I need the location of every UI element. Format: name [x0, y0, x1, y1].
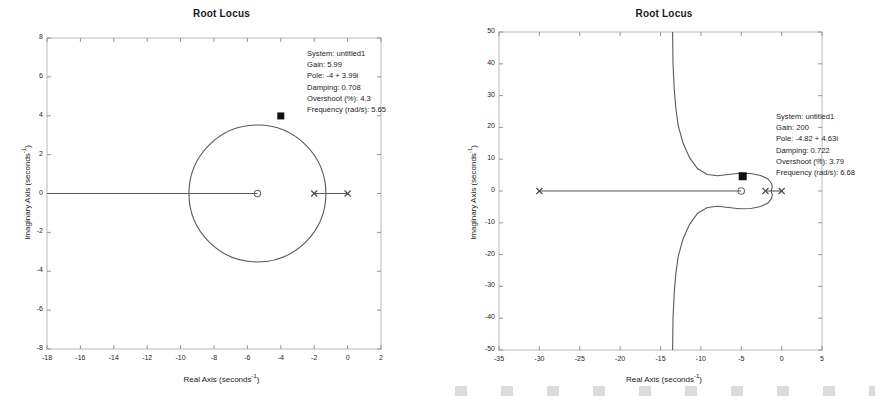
datatip-overshoot-left: Overshoot (%): 4.3	[307, 93, 386, 104]
x-tick-label: -8	[199, 354, 229, 361]
x-tick-label: -12	[132, 354, 162, 361]
y-tick-label: -10	[471, 218, 495, 225]
x-tick-label: -15	[646, 355, 676, 362]
datatip-system-right: System: untitled1	[776, 111, 855, 122]
root-locus-figure-right: Root Locus System: untitled1 Gain: 200 P…	[443, 0, 885, 406]
y-tick-label: -30	[471, 281, 495, 288]
y-tick-label: 6	[19, 72, 43, 79]
x-tick-label: -2	[299, 354, 329, 361]
x-axis-label-right: Real Axis (seconds-1)	[443, 375, 885, 384]
x-tick-label: -16	[65, 354, 95, 361]
datatip-overshoot-right: Overshoot (%): 3.79	[776, 156, 855, 167]
y-tick-label: 4	[19, 111, 43, 118]
x-tick-label: -10	[166, 354, 196, 361]
selected-pole-marker-right[interactable]	[739, 172, 747, 180]
x-tick-label: 0	[333, 354, 363, 361]
datatip-left[interactable]: System: untitled1 Gain: 5.99 Pole: -4 + …	[307, 48, 386, 115]
y-tick-label: -20	[471, 250, 495, 257]
root-locus-figure-pair: Root Locus System: untitled1 Gain: 5	[0, 0, 885, 406]
datatip-gain-left: Gain: 5.99	[307, 59, 386, 70]
y-tick-label: 40	[471, 59, 495, 66]
y-tick-label: 2	[19, 150, 43, 157]
datatip-pole-left: Pole: -4 + 3.99i	[307, 70, 386, 81]
y-tick-label: 20	[471, 122, 495, 129]
x-tick-label: -4	[266, 354, 296, 361]
y-tick-label: 0	[471, 186, 495, 193]
y-tick-label: -50	[471, 345, 495, 352]
y-tick-label: 50	[471, 27, 495, 34]
x-tick-label: -10	[686, 355, 716, 362]
datatip-damping-right: Damping: 0.722	[776, 145, 855, 156]
y-tick-label: -2	[19, 227, 43, 234]
x-axis-label-left: Real Axis (seconds-1)	[0, 375, 443, 384]
x-tick-label: -5	[726, 355, 756, 362]
x-tick-label: -30	[524, 355, 554, 362]
datatip-frequency-left: Frequency (rad/s): 5.65	[307, 104, 386, 115]
selected-pole-marker-left[interactable]	[277, 112, 284, 119]
datatip-damping-left: Damping: 0.708	[307, 82, 386, 93]
x-tick-label: -6	[232, 354, 262, 361]
x-tick-label: -18	[32, 354, 62, 361]
y-tick-label: -8	[19, 344, 43, 351]
datatip-pole-right: Pole: -4.82 + 4.63i	[776, 133, 855, 144]
x-tick-label: -35	[484, 355, 514, 362]
x-tick-label: 5	[807, 355, 837, 362]
y-tick-label: 30	[471, 91, 495, 98]
y-tick-label: 0	[19, 189, 43, 196]
x-tick-label: -25	[565, 355, 595, 362]
x-tick-label: 0	[767, 355, 797, 362]
y-tick-label: -4	[19, 266, 43, 273]
y-tick-label: 10	[471, 154, 495, 161]
datatip-system-left: System: untitled1	[307, 48, 386, 59]
y-tick-label: -6	[19, 305, 43, 312]
x-tick-label: 2	[366, 354, 396, 361]
y-tick-label: 8	[19, 33, 43, 40]
datatip-right[interactable]: System: untitled1 Gain: 200 Pole: -4.82 …	[776, 111, 855, 178]
datatip-gain-right: Gain: 200	[776, 122, 855, 133]
x-tick-label: -20	[605, 355, 635, 362]
datatip-frequency-right: Frequency (rad/s): 6.68	[776, 167, 855, 178]
x-tick-label: -14	[99, 354, 129, 361]
plot-area-right	[443, 0, 885, 406]
root-locus-figure-left: Root Locus System: untitled1 Gain: 5	[0, 0, 443, 406]
y-tick-label: -40	[471, 313, 495, 320]
